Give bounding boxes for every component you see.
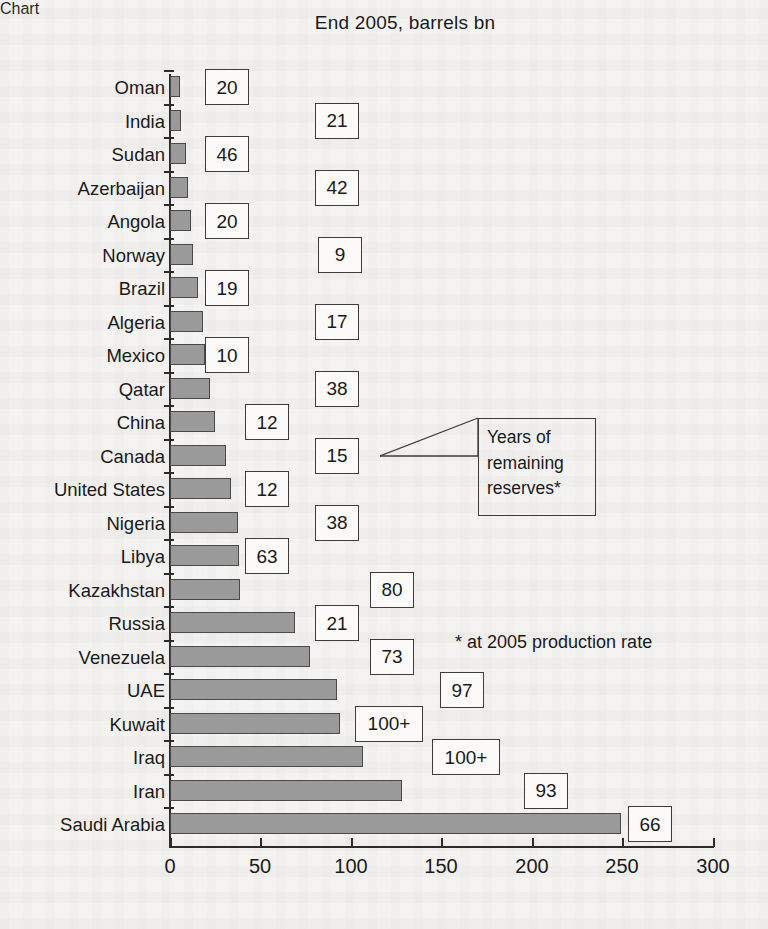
y-axis-tick bbox=[164, 573, 174, 575]
bar-brazil bbox=[170, 277, 198, 298]
years-value-box: 93 bbox=[524, 773, 568, 809]
category-label: Kuwait bbox=[109, 716, 165, 735]
x-axis-tick bbox=[713, 838, 715, 847]
y-axis-tick bbox=[164, 740, 174, 742]
callout-line-2: remaining bbox=[487, 451, 595, 477]
callout-line-3: reserves* bbox=[487, 476, 595, 502]
y-axis-tick bbox=[164, 640, 174, 642]
bar-india bbox=[170, 110, 181, 131]
footnote: * at 2005 production rate bbox=[455, 632, 652, 653]
bar-libya bbox=[170, 545, 239, 566]
bar-kazakhstan bbox=[170, 579, 240, 600]
category-label: Oman bbox=[115, 79, 165, 98]
callout-line-1: Years of bbox=[487, 425, 595, 451]
years-value-box: 10 bbox=[205, 337, 249, 373]
y-axis-tick bbox=[164, 204, 174, 206]
x-axis-tick-label: 250 bbox=[605, 855, 638, 878]
bar-kuwait bbox=[170, 713, 340, 734]
x-axis-tick bbox=[170, 838, 172, 847]
bar-algeria bbox=[170, 311, 203, 332]
y-axis-tick bbox=[164, 539, 174, 541]
category-label: Nigeria bbox=[106, 515, 165, 534]
category-label: Libya bbox=[121, 548, 165, 567]
x-axis-tick bbox=[260, 838, 262, 847]
bar-iran bbox=[170, 780, 402, 801]
bar-canada bbox=[170, 445, 226, 466]
years-value-box: 46 bbox=[205, 136, 249, 172]
y-axis-tick bbox=[164, 439, 174, 441]
years-value-box: 20 bbox=[205, 203, 249, 239]
x-axis-tick-label: 200 bbox=[515, 855, 548, 878]
category-label: United States bbox=[54, 481, 165, 500]
years-value-box: 100+ bbox=[432, 739, 500, 775]
category-label: UAE bbox=[127, 682, 165, 701]
y-axis-tick bbox=[164, 137, 174, 139]
callout-years-of-remaining-reserves: Years of remaining reserves* bbox=[478, 418, 596, 516]
x-axis-tick-label: 300 bbox=[696, 855, 729, 878]
category-label: Qatar bbox=[119, 381, 165, 400]
y-axis-tick bbox=[164, 506, 174, 508]
years-value-box: 9 bbox=[318, 237, 362, 273]
bar-norway bbox=[170, 244, 193, 265]
category-label: Russia bbox=[108, 615, 165, 634]
years-value-box: 97 bbox=[440, 672, 484, 708]
x-axis-tick-label: 0 bbox=[164, 855, 175, 878]
y-axis-tick bbox=[164, 271, 174, 273]
years-value-box: 12 bbox=[245, 471, 289, 507]
category-label: Algeria bbox=[107, 314, 165, 333]
years-value-box: 19 bbox=[205, 270, 249, 306]
years-value-box: 66 bbox=[628, 806, 672, 842]
x-axis-tick bbox=[532, 838, 534, 847]
x-axis-tick-label: 100 bbox=[334, 855, 367, 878]
x-axis-tick bbox=[441, 838, 443, 847]
years-value-box: 100+ bbox=[355, 706, 423, 742]
years-value-box: 38 bbox=[315, 371, 359, 407]
category-label: Canada bbox=[100, 448, 165, 467]
years-value-box: 80 bbox=[370, 572, 414, 608]
bar-qatar bbox=[170, 378, 210, 399]
category-label: Iran bbox=[133, 783, 165, 802]
y-axis-tick bbox=[164, 707, 174, 709]
category-label: Sudan bbox=[112, 146, 166, 165]
bar-chart: End 2005, barrels bn OmanIndiaSudanAzerb… bbox=[0, 0, 768, 929]
years-value-box: 21 bbox=[315, 103, 359, 139]
y-axis-tick bbox=[164, 405, 174, 407]
category-label: Norway bbox=[102, 247, 165, 266]
category-label: Saudi Arabia bbox=[60, 816, 165, 835]
callout-leader-line bbox=[380, 404, 490, 474]
years-value-box: 12 bbox=[245, 404, 289, 440]
years-value-box: 20 bbox=[205, 69, 249, 105]
bar-russia bbox=[170, 612, 295, 633]
category-label: Iraq bbox=[133, 749, 165, 768]
years-value-box: 38 bbox=[315, 505, 359, 541]
bar-oman bbox=[170, 76, 180, 97]
bar-azerbaijan bbox=[170, 177, 188, 198]
x-axis-tick-label: 50 bbox=[249, 855, 271, 878]
bar-sudan bbox=[170, 143, 186, 164]
years-value-box: 42 bbox=[315, 170, 359, 206]
category-label: Kazakhstan bbox=[68, 582, 165, 601]
y-axis-tick bbox=[164, 70, 174, 72]
bar-venezuela bbox=[170, 646, 310, 667]
y-axis-tick bbox=[164, 338, 174, 340]
bar-united-states bbox=[170, 478, 231, 499]
y-axis-tick bbox=[164, 104, 174, 106]
bar-uae bbox=[170, 679, 337, 700]
x-axis-tick bbox=[351, 838, 353, 847]
y-axis-tick bbox=[164, 171, 174, 173]
y-axis-tick bbox=[164, 774, 174, 776]
x-axis-tick-label: 150 bbox=[424, 855, 457, 878]
years-value-box: 63 bbox=[245, 538, 289, 574]
y-axis-tick bbox=[164, 305, 174, 307]
category-label: India bbox=[125, 113, 165, 132]
chart-title: End 2005, barrels bn bbox=[0, 12, 768, 34]
y-axis-tick bbox=[164, 372, 174, 374]
bar-saudi-arabia bbox=[170, 813, 621, 834]
category-label: Brazil bbox=[119, 280, 165, 299]
y-axis-tick bbox=[164, 606, 174, 608]
years-value-box: 17 bbox=[315, 304, 359, 340]
category-label: Azerbaijan bbox=[78, 180, 165, 199]
bar-china bbox=[170, 411, 215, 432]
bar-angola bbox=[170, 210, 191, 231]
y-axis-tick bbox=[164, 238, 174, 240]
